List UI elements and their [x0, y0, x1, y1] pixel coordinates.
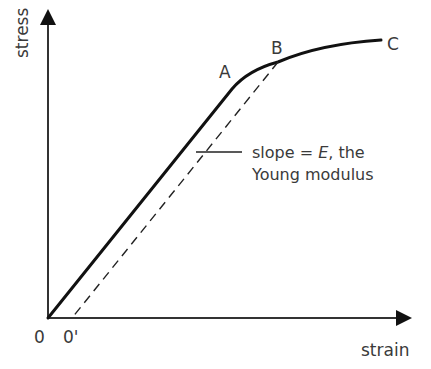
slope-suffix: , the	[328, 143, 364, 162]
slope-annotation-line2: Young modulus	[251, 165, 374, 184]
origin-label: 0	[34, 327, 45, 347]
unloading-line-dashed	[72, 62, 278, 318]
y-axis-arrow-icon	[40, 9, 56, 25]
slope-annotation-line1: slope = E, the	[252, 143, 365, 162]
stress-strain-diagram: stress strain 0 0' A B C slope = E, the …	[0, 0, 431, 369]
y-axis-label: stress	[12, 8, 32, 58]
offset-origin-label: 0'	[63, 327, 79, 347]
point-c-label: C	[387, 34, 399, 54]
slope-prefix: slope =	[252, 143, 318, 162]
point-b-label: B	[271, 38, 283, 58]
x-axis-label: strain	[361, 340, 409, 360]
point-a-label: A	[219, 62, 231, 82]
x-axis-arrow-icon	[396, 310, 412, 326]
